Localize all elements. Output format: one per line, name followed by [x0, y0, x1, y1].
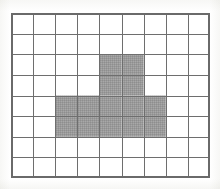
grid-cell-shaded: [99, 54, 121, 75]
grid-cell-shaded: [99, 116, 121, 137]
grid-cell-shaded: [144, 116, 166, 137]
grid-wrapper: [11, 13, 210, 178]
grid-cell-shaded: [99, 75, 121, 96]
grid-cell-shaded: [77, 116, 99, 137]
grid-cell-shaded: [144, 96, 166, 117]
grid-cell-shaded: [55, 96, 77, 117]
grid-cell-shaded: [77, 96, 99, 117]
figure-canvas: [0, 0, 220, 189]
grid-cell-shaded: [122, 75, 144, 96]
grid-cell-shaded: [122, 116, 144, 137]
grid-cell-shaded: [122, 54, 144, 75]
grid-cell-shaded: [55, 116, 77, 137]
grid-cell-shaded: [99, 96, 121, 117]
grid-cell-shaded: [122, 96, 144, 117]
grid-figure: [11, 13, 210, 178]
